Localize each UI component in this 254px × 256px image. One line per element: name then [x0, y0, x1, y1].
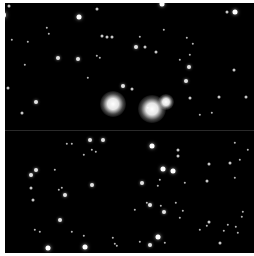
star [148, 243, 152, 247]
star [46, 27, 48, 29]
star [112, 237, 114, 239]
bright-star [158, 94, 174, 110]
star [83, 235, 85, 237]
star [234, 177, 236, 179]
star [223, 230, 225, 232]
star [192, 43, 194, 45]
star [208, 221, 211, 224]
star [77, 15, 82, 20]
star [58, 189, 60, 191]
star [61, 187, 63, 189]
star [189, 97, 192, 100]
star [175, 202, 177, 204]
star [91, 149, 93, 151]
star [245, 96, 248, 99]
star [139, 36, 141, 38]
star [187, 65, 191, 69]
star [179, 217, 181, 219]
star [241, 216, 243, 218]
star [235, 226, 237, 228]
star [208, 163, 211, 166]
star [177, 155, 180, 158]
star [29, 173, 33, 177]
star [90, 183, 94, 187]
star [184, 182, 186, 184]
star [96, 8, 99, 11]
star [121, 84, 125, 88]
star [206, 225, 208, 227]
star [184, 79, 188, 83]
star [34, 100, 38, 104]
star [101, 35, 104, 38]
star [144, 46, 147, 49]
star [11, 39, 13, 41]
star-field-image [5, 3, 254, 253]
star [30, 187, 33, 190]
scan-line-artifact [5, 130, 254, 131]
star [234, 142, 236, 144]
star [88, 138, 92, 142]
star [63, 193, 67, 197]
star [189, 54, 191, 56]
star [71, 231, 73, 233]
star [157, 185, 159, 187]
star [8, 5, 11, 8]
star [106, 36, 109, 39]
star [46, 246, 51, 251]
star [162, 210, 166, 214]
star [179, 59, 181, 61]
star [242, 211, 244, 213]
star [48, 33, 50, 35]
star [24, 64, 26, 66]
star [140, 181, 144, 185]
star [171, 169, 176, 174]
star [56, 56, 60, 60]
star [159, 179, 161, 181]
bright-star [100, 91, 126, 117]
star [155, 51, 158, 54]
star [229, 162, 232, 165]
star [239, 159, 241, 161]
star [58, 218, 62, 222]
star [54, 169, 56, 171]
star [148, 203, 152, 207]
star [247, 149, 249, 151]
star [76, 57, 80, 61]
star [83, 245, 88, 250]
star [226, 11, 229, 14]
star [83, 154, 85, 156]
star [218, 96, 221, 99]
star [34, 229, 36, 231]
star [199, 229, 201, 231]
star [164, 242, 166, 244]
star [219, 242, 222, 245]
star [156, 235, 161, 240]
star [21, 112, 24, 115]
star [32, 199, 35, 202]
star [139, 241, 141, 243]
star [233, 69, 236, 72]
star [116, 245, 118, 247]
star [99, 57, 101, 59]
star [95, 151, 97, 153]
star [71, 143, 73, 145]
star [150, 144, 155, 149]
star [66, 143, 68, 145]
star [87, 77, 89, 79]
star [160, 3, 165, 7]
star [163, 29, 165, 31]
star [182, 210, 184, 212]
star [7, 87, 10, 90]
star [227, 224, 229, 226]
star [211, 112, 213, 114]
star [27, 41, 29, 43]
star [131, 88, 134, 91]
star [101, 138, 105, 142]
star [160, 205, 162, 207]
star [206, 180, 209, 183]
star [186, 37, 188, 39]
star [5, 12, 6, 18]
star [134, 209, 136, 211]
star [111, 36, 114, 39]
star [177, 149, 180, 152]
